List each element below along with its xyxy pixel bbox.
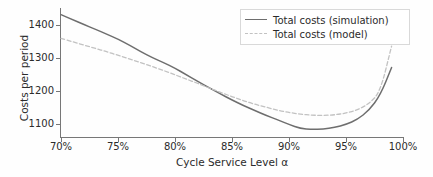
y-tick-label: 1300 [20,53,54,63]
y-axis-label-host: Costs per period [8,14,24,132]
x-tick-label: 90% [269,142,309,152]
x-tick-label: 95% [326,142,366,152]
x-tick-label: 85% [212,142,252,152]
y-tick-mark [56,124,60,125]
legend-line-solid-icon [245,15,267,25]
y-tick-label-text: 1400 [26,20,54,30]
x-tick-label: 80% [155,142,195,152]
y-tick-label-text: 1300 [26,53,54,63]
legend-item-simulation: Total costs (simulation) [245,13,404,27]
y-tick-label: 1100 [20,119,54,129]
series-line-model [61,38,392,115]
x-tick-label: 75% [98,142,138,152]
chart-legend: Total costs (simulation) Total costs (mo… [240,9,410,45]
y-tick-label-text: 1100 [26,119,54,129]
y-tick-mark [56,91,60,92]
legend-line-dashed-icon [245,29,267,39]
x-tick-label: 100% [383,142,423,152]
y-tick-mark [56,25,60,26]
x-tick-label: 70% [41,142,81,152]
legend-label-simulation: Total costs (simulation) [273,15,389,26]
y-tick-label-text: 1200 [26,86,54,96]
legend-item-model: Total costs (model) [245,27,404,41]
y-tick-label: 1200 [20,86,54,96]
chart-figure: Costs per period 1100120013001400 70%75%… [0,0,433,177]
legend-label-model: Total costs (model) [273,29,368,40]
y-tick-label: 1400 [20,20,54,30]
x-axis-label: Cycle Service Level α [60,156,404,168]
y-tick-mark [56,58,60,59]
